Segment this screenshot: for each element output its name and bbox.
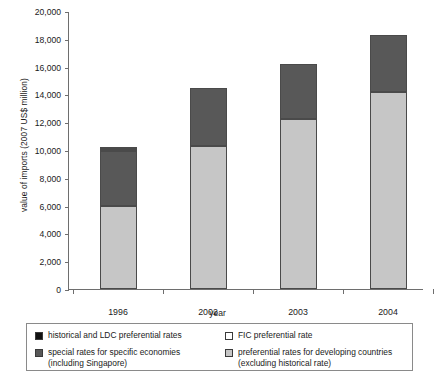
y-axis-tick-label: 18,000 [5,35,61,44]
bar-segment[interactable] [190,146,227,289]
bar-2002[interactable] [190,88,227,289]
bar-segment[interactable] [370,92,407,289]
legend-item-label: historical and LDC preferential rates [48,330,182,341]
legend-item[interactable]: preferential rates for developing countr… [225,347,392,369]
x-axis-tick-mark [433,289,434,294]
y-axis-tick-mark [65,262,70,263]
y-axis-tick-label: 6,000 [5,202,61,211]
dark-gray-swatch [35,349,43,357]
plot-inner: 02,0004,0006,0008,00010,00012,00014,0001… [69,12,423,289]
bar-1996[interactable] [100,148,137,289]
x-axis-tick-mark [343,289,344,294]
legend-item[interactable]: historical and LDC preferential rates [35,330,182,341]
y-axis-tick-mark [65,207,70,208]
y-axis-tick-label: 2,000 [5,258,61,267]
y-axis-tick-mark [65,40,70,41]
chart-figure: value of imports (2007 US$ million) 02,0… [0,0,435,378]
bar-segment[interactable] [100,206,137,289]
legend-item[interactable]: special rates for specific economies (in… [35,347,180,369]
legend-item-label: preferential rates for developing countr… [238,347,392,369]
light-gray-swatch [225,349,233,357]
y-axis-tick-mark [65,95,70,96]
legend-item-label: FIC preferential rate [238,330,312,341]
y-axis-tick-label: 10,000 [5,147,61,156]
y-axis-tick-mark [65,123,70,124]
y-axis-tick-label: 8,000 [5,174,61,183]
bar-2004[interactable] [370,35,407,289]
y-axis-tick-label: 0 [5,286,61,295]
y-axis-tick-label: 4,000 [5,230,61,239]
bar-segment[interactable] [100,147,137,149]
bar-segment[interactable] [280,119,317,289]
bar-segment[interactable] [280,64,317,120]
bar-2003[interactable] [280,64,317,289]
legend-item[interactable]: FIC preferential rate [225,330,312,341]
y-axis-tick-label: 14,000 [5,91,61,100]
y-axis-tick-label: 20,000 [5,8,61,17]
black-swatch [35,332,43,340]
y-axis-tick-mark [65,68,70,69]
y-axis-tick-mark [65,290,70,291]
bar-segment[interactable] [100,151,137,206]
y-axis-tick-mark [65,179,70,180]
x-axis-title: year [0,308,435,318]
plot-area: 02,0004,0006,0008,00010,00012,00014,0001… [68,12,423,290]
y-axis-tick-mark [65,234,70,235]
x-axis-tick-mark [163,289,164,294]
y-axis-tick-mark [65,151,70,152]
y-axis-tick-mark [65,12,70,13]
y-axis-tick-label: 16,000 [5,63,61,72]
y-axis-tick-label: 12,000 [5,119,61,128]
bar-segment[interactable] [370,35,407,91]
legend-item-label: special rates for specific economies (in… [48,347,180,369]
x-axis-tick-mark [73,289,74,294]
chart-legend: historical and LDC preferential ratesFIC… [26,323,413,371]
x-axis-tick-mark [253,289,254,294]
white-swatch [225,332,233,340]
bar-segment[interactable] [190,88,227,146]
